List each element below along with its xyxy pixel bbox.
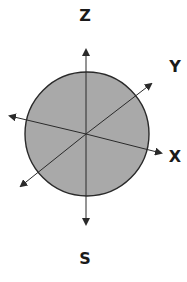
z-axis-label: Z [79, 6, 91, 25]
x-axis-label: X [169, 147, 182, 166]
coordinate-sphere-diagram: Z Y X S [0, 0, 187, 282]
s-axis-label: S [79, 249, 91, 268]
y-axis-label: Y [168, 57, 181, 76]
